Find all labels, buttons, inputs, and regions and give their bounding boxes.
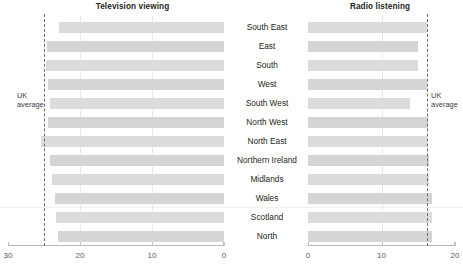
bar [52, 174, 224, 185]
region-label: Northern Ireland [226, 155, 308, 165]
chart-figure: Television viewing Radio listening 30201… [0, 0, 463, 274]
axis-tick-label: 10 [377, 251, 386, 260]
region-label: Wales [226, 193, 308, 203]
region-label: South East [226, 22, 308, 32]
bar [56, 212, 224, 223]
region-label: West [226, 79, 308, 89]
bar [308, 60, 418, 71]
axis-tick [224, 242, 225, 246]
bar [308, 193, 432, 204]
region-label: South [226, 60, 308, 70]
left-panel-title: Television viewing [40, 2, 225, 11]
radio-listening-plot: 01020 [308, 16, 455, 254]
bar [308, 22, 427, 33]
region-label: East [226, 41, 308, 51]
axis-tick-label: 10 [148, 251, 157, 260]
region-label: North West [226, 117, 308, 127]
bar [308, 117, 428, 128]
bar [41, 136, 224, 147]
uk-average-label-left: UK average [17, 92, 44, 109]
region-label: North [226, 231, 308, 241]
bar [308, 41, 418, 52]
bar [46, 60, 224, 71]
axis-tick-label: 30 [4, 251, 13, 260]
region-label: South West [226, 98, 308, 108]
bar [308, 231, 432, 242]
uk-average-label-right: UK average [431, 92, 458, 109]
region-label: North East [226, 136, 308, 146]
bar [58, 231, 224, 242]
bar [308, 155, 429, 166]
bar [48, 79, 224, 90]
region-label: Midlands [226, 174, 308, 184]
bar [308, 98, 410, 109]
axis-line [308, 245, 455, 246]
bar [308, 136, 427, 147]
axis-line [8, 245, 224, 246]
uk-average-reference-line [427, 14, 428, 246]
uk-average-line2: average [431, 101, 458, 110]
axis-end-cap [8, 242, 9, 246]
bar [308, 212, 432, 223]
bar [48, 117, 224, 128]
uk-average-line2: average [17, 101, 44, 110]
bar [308, 79, 427, 90]
television-viewing-plot: 3020100 [8, 16, 224, 254]
region-label: Scotland [226, 212, 308, 222]
axis-tick [455, 242, 456, 246]
uk-average-reference-line [44, 14, 45, 246]
bar [50, 155, 224, 166]
bar [308, 174, 429, 185]
bar [55, 193, 224, 204]
bar [59, 22, 224, 33]
bar [47, 41, 224, 52]
bar [50, 98, 224, 109]
right-panel-title: Radio listening [300, 2, 460, 11]
axis-tick-label: 20 [76, 251, 85, 260]
axis-tick-label: 20 [451, 251, 460, 260]
region-label-column: South EastEastSouthWestSouth WestNorth W… [226, 16, 308, 254]
axis-end-cap [454, 242, 455, 246]
axis-end-cap [223, 242, 224, 246]
axis-end-cap [308, 242, 309, 246]
